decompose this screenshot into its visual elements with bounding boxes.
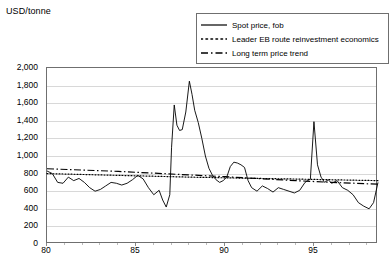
legend-item: Long term price trend [201,46,384,60]
y-axis-tick-label: 2,000 [17,63,38,72]
x-axis-tick-label: 95 [308,246,317,255]
x-axis-minor-tick [206,243,207,245]
y-axis-tick-label: 600 [24,186,38,195]
chart-legend: Spot price, fobLeader EB route reinvestm… [196,13,389,64]
x-axis-tick-label: 90 [219,246,228,255]
series-line [47,169,378,184]
x-axis-minor-tick [260,243,261,245]
x-axis-minor-tick [117,243,118,245]
y-axis-tick-labels: 02004006008001,0001,2001,4001,6001,8002,… [0,67,42,243]
x-axis-minor-tick [366,243,367,245]
x-axis-tick-labels: 80859095 [46,246,377,262]
x-axis-minor-tick [82,243,83,245]
legend-item: Spot price, fob [201,18,384,32]
series-lines [47,68,378,244]
x-axis-minor-tick [188,243,189,245]
x-axis-minor-tick [153,243,154,245]
y-axis-tick-label: 0 [33,239,38,248]
y-axis-tick-label: 1,000 [17,151,38,160]
x-axis-minor-tick [171,243,172,245]
y-axis-tick-label: 1,800 [17,80,38,89]
legend-line-sample [201,34,227,44]
series-line [47,81,378,209]
x-axis-minor-tick [242,243,243,245]
y-axis-tick-label: 200 [24,221,38,230]
x-axis-tick-label: 85 [130,246,139,255]
legend-item: Leader EB route reinvestment economics [201,32,384,46]
x-axis-minor-tick [64,243,65,245]
legend-label: Leader EB route reinvestment economics [232,35,379,44]
x-axis-minor-tick [349,243,350,245]
x-axis-minor-tick [295,243,296,245]
legend-line-sample [201,48,227,58]
y-axis-tick-label: 800 [24,168,38,177]
chart-figure: USD/tonne 02004006008001,0001,2001,4001,… [0,0,392,274]
legend-label: Long term price trend [232,49,308,58]
x-axis-minor-tick [331,243,332,245]
legend-line-sample [201,20,227,30]
x-axis-minor-tick [99,243,100,245]
plot-area [46,67,377,243]
x-axis-tick-label: 80 [41,246,50,255]
legend-label: Spot price, fob [232,21,284,30]
y-axis-tick-label: 1,400 [17,115,38,124]
y-axis-tick-label: 1,600 [17,98,38,107]
x-axis-minor-tick [277,243,278,245]
y-axis-tick-label: 400 [24,203,38,212]
y-axis-title: USD/tonne [6,6,51,16]
y-axis-tick-label: 1,200 [17,133,38,142]
